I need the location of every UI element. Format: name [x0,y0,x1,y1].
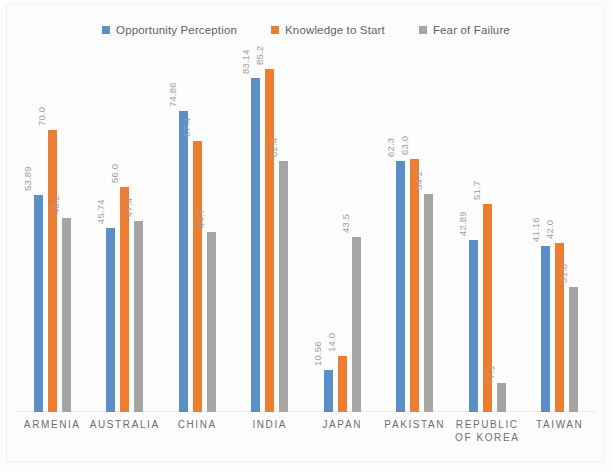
bar-value-label: 10.56 [312,341,323,366]
bar-slot: 43.5 [352,50,361,412]
category-label: TAIWAN [524,418,597,444]
legend-entry: Fear of Failure [419,24,510,36]
bar-group: 62.363.054.2 [379,50,452,412]
bar-value-label: 43.5 [340,214,351,233]
bar-slot: 56.0 [120,50,129,412]
bar[interactable] [469,240,478,413]
category-label: INDIA [234,418,307,444]
bar-value-label: 47.4 [122,198,133,217]
bar-value-label: 53.89 [22,166,33,191]
bar-groups: 53.8970.048.245.7456.047.474.8667.444.78… [16,50,596,412]
bar[interactable] [569,287,578,412]
category-label: ARMENIA [16,418,89,444]
category-label: PAKISTAN [379,418,452,444]
bar[interactable] [193,141,202,412]
bar[interactable] [179,111,188,412]
bar-slot: 67.4 [193,50,202,412]
bar-value-label: 62.4 [267,138,278,157]
bar-value-label: 14.0 [326,332,337,351]
bar-value-label: 42.89 [457,211,468,236]
bar[interactable] [396,161,405,412]
bar-slot: 63.0 [410,50,419,412]
bar-value-label: 7.1 [485,366,496,380]
bar-slot: 47.4 [134,50,143,412]
bar[interactable] [424,194,433,412]
legend-label: Opportunity Perception [116,24,237,36]
bar[interactable] [106,228,115,412]
legend-entry: Knowledge to Start [271,24,385,36]
bar-slot: 53.89 [34,50,43,412]
category-label: REPUBLIC OF KOREA [451,418,524,444]
bar-value-label: 85.2 [253,46,264,65]
legend-label: Fear of Failure [433,24,510,36]
bar-slot: 48.2 [62,50,71,412]
bar[interactable] [497,383,506,412]
bar[interactable] [48,130,57,412]
bar-value-label: 51.7 [471,181,482,200]
bar-group: 45.7456.047.4 [89,50,162,412]
bar-group: 10.5614.043.5 [306,50,379,412]
legend-square-marker-icon [102,26,110,34]
bar-value-label: 70.0 [36,107,47,126]
bar-group: 53.8970.048.2 [16,50,89,412]
plot-area: 53.8970.048.245.7456.047.474.8667.444.78… [16,50,596,412]
bar[interactable] [483,204,492,412]
bar-slot: 62.4 [279,50,288,412]
bar[interactable] [251,78,260,412]
bar[interactable] [207,232,216,412]
chart-legend: Opportunity PerceptionKnowledge to Start… [0,24,612,36]
bar-group: 42.8951.77.1 [451,50,524,412]
bar-value-label: 45.74 [94,199,105,224]
bar[interactable] [541,246,550,412]
bar-slot: 74.86 [179,50,188,412]
bar-group: 83.1485.262.4 [234,50,307,412]
bar[interactable] [324,370,333,412]
legend-label: Knowledge to Start [285,24,385,36]
bar-slot: 70.0 [48,50,57,412]
bar-value-label: 42.0 [543,220,554,239]
bar-slot: 42.89 [469,50,478,412]
category-axis-labels: ARMENIAAUSTRALIACHINAINDIAJAPANPAKISTANR… [16,418,596,444]
bar-value-label: 31.0 [557,264,568,283]
bar[interactable] [62,218,71,412]
bar[interactable] [265,69,274,412]
bar-value-label: 41.16 [529,218,540,243]
bar-slot: 7.1 [497,50,506,412]
bar-slot: 10.56 [324,50,333,412]
bar-value-label: 48.2 [50,195,61,214]
bar-slot: 54.2 [424,50,433,412]
bar[interactable] [352,237,361,412]
bar-slot: 51.7 [483,50,492,412]
bar-value-label: 83.14 [239,49,250,74]
bar[interactable] [338,356,347,412]
bar-value-label: 74.86 [167,82,178,107]
bar-value-label: 67.4 [181,118,192,137]
bar-slot: 45.74 [106,50,115,412]
legend-square-marker-icon [419,26,427,34]
bar-slot: 31.0 [569,50,578,412]
bar[interactable] [410,159,419,412]
bar-value-label: 54.2 [412,171,423,190]
bar-value-label: 56.0 [108,163,119,182]
bar-slot: 83.14 [251,50,260,412]
bar-group: 41.1642.031.0 [524,50,597,412]
bar[interactable] [34,195,43,412]
bar[interactable] [134,221,143,412]
bar[interactable] [279,161,288,412]
bar-value-label: 44.7 [195,209,206,228]
bar[interactable] [120,187,129,412]
category-label: CHINA [161,418,234,444]
bar-group: 74.8667.444.7 [161,50,234,412]
category-label: JAPAN [306,418,379,444]
bar-value-label: 63.0 [398,135,409,154]
bar-slot: 62.3 [396,50,405,412]
category-label: AUSTRALIA [89,418,162,444]
legend-square-marker-icon [271,26,279,34]
chart-container: Opportunity PerceptionKnowledge to Start… [0,0,612,471]
bar-value-label: 62.3 [384,138,395,157]
bar-slot: 44.7 [207,50,216,412]
bar-slot: 42.0 [555,50,564,412]
bar-slot: 85.2 [265,50,274,412]
legend-entry: Opportunity Perception [102,24,237,36]
